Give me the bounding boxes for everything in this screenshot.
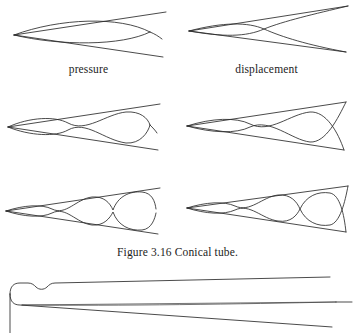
cone-diagram-pressure-mode-2	[0, 100, 177, 182]
cone-label-displacement: displacement	[178, 62, 355, 76]
cone-diagram-displacement-mode-1: displacement	[178, 4, 355, 86]
cone-mode-svg	[0, 100, 177, 160]
cone-label-pressure: pressure	[0, 62, 177, 76]
cone-mode-svg	[178, 100, 355, 160]
figure-page: pressure displacement	[0, 0, 355, 333]
tapered-tube-svg	[0, 272, 355, 333]
cone-mode-svg	[178, 182, 355, 242]
cone-diagram-displacement-mode-2	[178, 100, 355, 182]
cone-mode-svg	[0, 4, 177, 64]
tapered-tube-diagram	[0, 272, 355, 333]
figure-caption: Figure 3.16 Conical tube.	[0, 246, 355, 258]
cone-mode-svg	[0, 182, 177, 242]
cone-figure-grid: pressure displacement	[0, 0, 355, 246]
cone-diagram-pressure-mode-1: pressure	[0, 4, 177, 86]
cone-mode-svg	[178, 4, 355, 64]
